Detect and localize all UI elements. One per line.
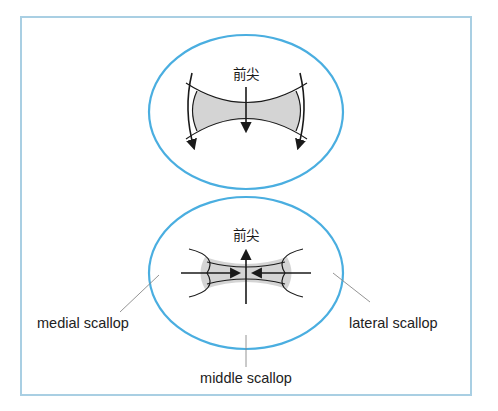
medial-scallop-label: medial scallop — [37, 315, 129, 331]
bottom-anterior-label: 前尖 — [233, 227, 259, 243]
valve-diagram: 前尖 前尖 medial scallop lateral scallop mid… — [0, 0, 498, 411]
top-anterior-label: 前尖 — [233, 66, 259, 82]
bottom-panel: 前尖 medial scallop lateral scallop middle… — [37, 197, 438, 386]
middle-scallop-label: middle scallop — [200, 370, 292, 386]
top-panel: 前尖 — [149, 35, 343, 189]
lateral-scallop-label: lateral scallop — [349, 315, 438, 331]
